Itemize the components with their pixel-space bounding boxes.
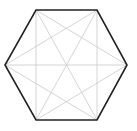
hexagon-diagram (0, 0, 137, 131)
diagonal-line (5, 10, 97, 65)
diagonal-line (36, 65, 127, 120)
diagonal-lines (5, 10, 127, 120)
diagonal-line (5, 65, 97, 120)
